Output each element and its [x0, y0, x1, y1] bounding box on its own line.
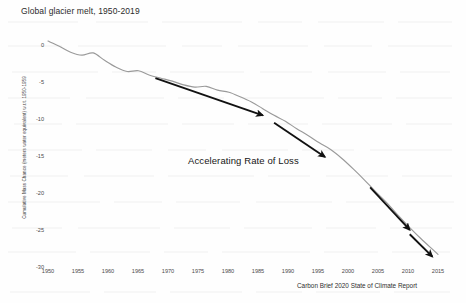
trend-arrow-2 — [274, 123, 325, 157]
annotation-accelerating-rate-of-loss: Accelerating Rate of Loss — [188, 155, 299, 166]
trend-arrow-1 — [155, 78, 262, 115]
source-caption: Carbon Brief 2020 State of Climate Repor… — [297, 282, 417, 289]
plot-area — [0, 0, 466, 303]
trend-arrow-3 — [370, 187, 410, 229]
trend-arrow-group — [155, 78, 432, 256]
chart-figure: Global glacier melt, 1950-2019 Cumulativ… — [0, 0, 466, 303]
data-series-line — [48, 41, 438, 254]
